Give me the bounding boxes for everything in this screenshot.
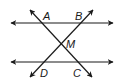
point-label-a: A [42,10,50,22]
geometry-diagram: A B M D C [0,0,125,84]
diagram-svg: A B M D C [0,0,125,84]
point-label-m: M [66,38,76,50]
point-label-c: C [73,67,81,79]
point-label-d: D [40,67,48,79]
point-label-b: B [75,10,82,22]
